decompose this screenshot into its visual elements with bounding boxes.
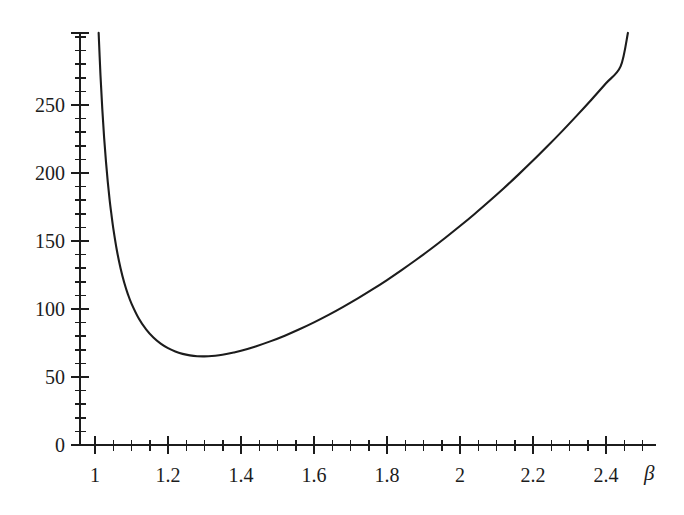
x-tick-label: 1.2 (156, 465, 181, 485)
y-tick-label: 50 (45, 367, 65, 387)
x-tick-label: 1.4 (229, 465, 254, 485)
data-series-group (99, 33, 628, 356)
y-tick-label: 100 (35, 299, 65, 319)
axes-group (80, 33, 656, 445)
tick-marks-group (71, 33, 643, 454)
x-tick-label: 2.2 (521, 465, 546, 485)
data-line (99, 33, 628, 356)
chart-plot-area (0, 0, 684, 515)
y-tick-label: 250 (35, 95, 65, 115)
y-tick-label: 0 (55, 435, 65, 455)
x-axis-label: β (644, 463, 654, 484)
y-tick-label: 200 (35, 163, 65, 183)
x-tick-label: 2 (455, 465, 465, 485)
x-tick-label: 2.4 (594, 465, 619, 485)
y-tick-label: 150 (35, 231, 65, 251)
chart-container: 05010015020025011.21.41.61.822.22.4 β (0, 0, 684, 515)
x-tick-label: 1.8 (375, 465, 400, 485)
x-tick-label: 1.6 (302, 465, 327, 485)
x-tick-label: 1 (90, 465, 100, 485)
